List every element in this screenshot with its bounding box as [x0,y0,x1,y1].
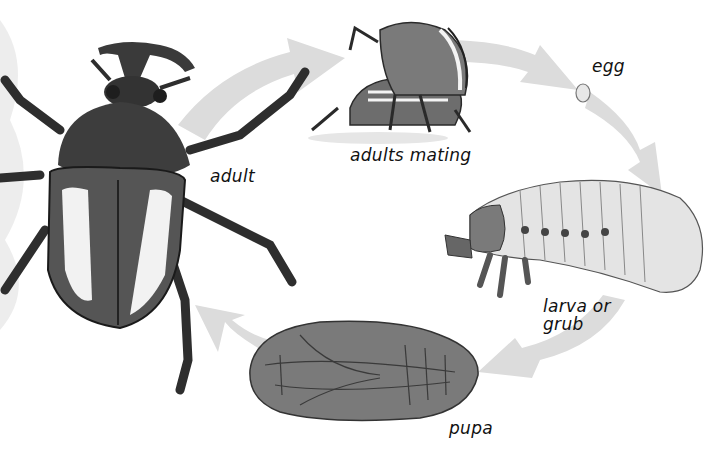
label-larva-or-grub: larva or grub [543,298,611,334]
label-egg: egg [592,58,625,76]
arrow-pupa-to-adult [195,305,270,352]
mating-adults-illustration [308,23,470,145]
arrow-egg-to-larva [585,92,662,195]
label-adult: adult [210,168,255,186]
larva-illustration [445,180,703,295]
arrow-mating-to-egg [455,40,578,90]
egg-illustration [576,84,590,102]
label-adults-mating: adults mating [350,147,471,165]
life-cycle-diagram: adult adults mating egg larva or grub pu… [0,0,721,461]
pupa-illustration [250,321,478,420]
label-pupa: pupa [449,420,493,438]
